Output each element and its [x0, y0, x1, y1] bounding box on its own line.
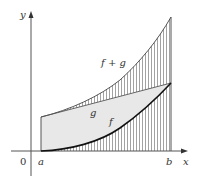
origin-label: 0: [20, 156, 26, 167]
f-plus-g-label: f + g: [100, 57, 126, 68]
b-label: b: [166, 156, 172, 167]
a-label: a: [38, 156, 44, 167]
g-label: g: [90, 107, 96, 118]
y-axis-label: y: [19, 9, 26, 20]
x-axis-arrow-icon: [181, 149, 188, 154]
y-axis-arrow-icon: [29, 11, 34, 18]
area-sum-diagram: y x 0 a b f + g g f: [0, 0, 200, 183]
x-axis-label: x: [183, 156, 189, 167]
